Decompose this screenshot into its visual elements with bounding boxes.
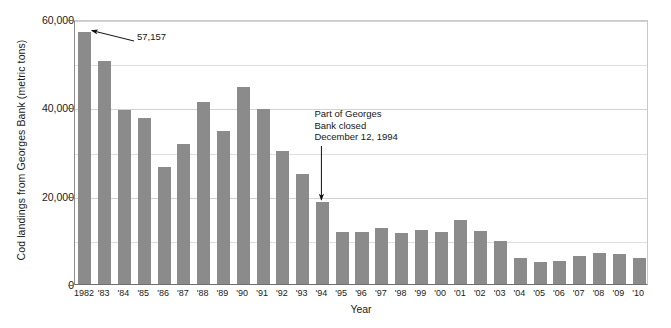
bar[interactable]	[177, 144, 190, 284]
x-axis-tick-label: '95	[335, 288, 347, 298]
x-axis-tick-label: '85	[137, 288, 149, 298]
bar[interactable]	[375, 228, 388, 284]
bar[interactable]	[553, 261, 566, 284]
bar[interactable]	[316, 202, 329, 284]
y-axis-tick-mark	[68, 285, 74, 286]
x-axis-tick-label: '94	[316, 288, 328, 298]
bar[interactable]	[435, 232, 448, 284]
bar[interactable]	[257, 109, 270, 284]
bar[interactable]	[98, 61, 111, 284]
bar[interactable]	[336, 232, 349, 284]
x-axis-tick-label: '83	[98, 288, 110, 298]
x-axis-tick-label: '99	[415, 288, 427, 298]
x-axis-tick-label: '88	[197, 288, 209, 298]
x-axis-tick-label: '93	[296, 288, 308, 298]
y-axis-tick-label: 20,000	[12, 191, 74, 203]
x-axis-tick-label: '09	[612, 288, 624, 298]
bar[interactable]	[474, 231, 487, 284]
x-axis-tick-label: '89	[217, 288, 229, 298]
bar[interactable]	[296, 174, 309, 284]
x-axis-tick-label: '84	[118, 288, 130, 298]
x-axis-tick-label: '86	[157, 288, 169, 298]
x-axis-tick-label: '08	[593, 288, 605, 298]
x-axis-tick-container: 1982'83'84'85'86'87'88'89'90'91'92'93'94…	[74, 288, 648, 304]
bar[interactable]	[158, 167, 171, 284]
bar[interactable]	[494, 241, 507, 284]
bar[interactable]	[514, 258, 527, 285]
bar[interactable]	[118, 110, 131, 284]
x-axis-tick-label: '01	[454, 288, 466, 298]
x-axis-tick-label: '90	[236, 288, 248, 298]
bar-series	[75, 21, 647, 284]
bar[interactable]	[454, 220, 467, 284]
plot-area	[74, 20, 648, 285]
x-axis-tick-label: '06	[553, 288, 565, 298]
x-axis-tick-label: '07	[573, 288, 585, 298]
bar[interactable]	[276, 151, 289, 284]
bar[interactable]	[395, 233, 408, 284]
bar[interactable]	[573, 256, 586, 284]
y-axis-tick-label: 0	[12, 279, 74, 291]
x-axis-tick-label: '02	[474, 288, 486, 298]
x-axis-tick-label: '92	[276, 288, 288, 298]
x-axis-tick-label: '87	[177, 288, 189, 298]
bar[interactable]	[593, 253, 606, 284]
x-axis-tick-label: 1982	[74, 288, 94, 298]
x-axis-tick-label: '05	[533, 288, 545, 298]
bar[interactable]	[355, 232, 368, 284]
x-axis-tick-label: '03	[494, 288, 506, 298]
bar[interactable]	[534, 262, 547, 284]
x-axis-tick-label: '97	[375, 288, 387, 298]
y-axis-tick-container: 020,00040,00060,000	[0, 0, 74, 328]
cod-landings-bar-chart: Cod landings from Georges Bank (metric t…	[0, 0, 671, 328]
peak-value-annotation: 57,157	[137, 31, 166, 43]
x-axis-tick-label: '00	[434, 288, 446, 298]
y-axis-tick-label: 60,000	[12, 14, 74, 26]
x-axis-tick-label: '04	[513, 288, 525, 298]
bar[interactable]	[138, 118, 151, 284]
x-axis-tick-label: '91	[256, 288, 268, 298]
bar[interactable]	[613, 254, 626, 284]
bar[interactable]	[237, 87, 250, 284]
y-axis-tick-label: 40,000	[12, 102, 74, 114]
bar[interactable]	[217, 131, 230, 284]
bar[interactable]	[633, 258, 646, 284]
x-axis-tick-label: '96	[355, 288, 367, 298]
x-axis-title: Year	[74, 303, 648, 315]
x-axis-tick-label: '10	[632, 288, 644, 298]
bar[interactable]	[78, 32, 91, 284]
x-axis-tick-label: '98	[395, 288, 407, 298]
closure-note-annotation: Part of Georges Bank closed December 12,…	[314, 108, 397, 143]
bar[interactable]	[197, 102, 210, 284]
bar[interactable]	[415, 230, 428, 284]
